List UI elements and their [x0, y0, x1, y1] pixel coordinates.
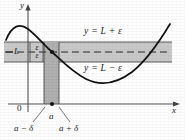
- y-axis-arrowhead: [25, 4, 30, 11]
- x-axis-label: x: [172, 106, 176, 115]
- leader-right: [59, 107, 70, 122]
- xtick-a-minus-delta-label: a − δ: [14, 124, 33, 133]
- xtick-a-label: a: [49, 112, 54, 121]
- origin-label: 0: [17, 104, 22, 113]
- lower-bound-label: y = L − ε: [84, 64, 122, 74]
- leader-left: [33, 107, 45, 122]
- upper-bound-label: y = L + ε: [84, 27, 122, 37]
- epsilon-delta-limit-figure: y x 0 L ε ε y = L + ε y = L − ε a a − δ …: [0, 0, 185, 140]
- point-on-curve: [50, 50, 54, 54]
- point-a-on-axis: [50, 102, 54, 106]
- limit-value-label: L: [14, 47, 19, 56]
- epsilon-lower-label: ε: [34, 52, 39, 60]
- epsilon-measure-stack: ε ε: [31, 42, 43, 62]
- xtick-a-plus-delta-label: a + δ: [59, 124, 78, 133]
- y-axis-label: y: [20, 1, 24, 10]
